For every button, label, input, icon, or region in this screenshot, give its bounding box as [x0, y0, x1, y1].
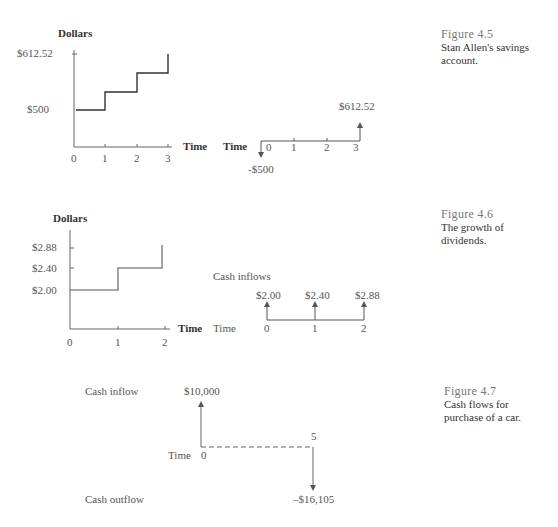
- fig47-end-tick: 5: [311, 430, 317, 442]
- fig46-tl-value-2: $2.88: [355, 289, 380, 301]
- fig47-inflow-value: $10,000: [184, 385, 220, 397]
- fig46-tl-tick-2: 2: [361, 322, 367, 334]
- fig45-timeline: [261, 125, 360, 155]
- fig46-xtick-0: 0: [67, 336, 73, 348]
- fig46-caption-text: The growth of dividends.: [441, 221, 536, 247]
- fig45-caption-text: Stan Allen's savings account.: [441, 41, 551, 67]
- fig46-timeline-label: Time: [213, 322, 236, 334]
- fig45-tl-tick-3: 3: [353, 141, 359, 153]
- fig45-ytick-bottom: $500: [27, 103, 49, 115]
- fig46-ylabel: Dollars: [53, 212, 87, 224]
- fig45-tl-tick-2: 2: [324, 141, 330, 153]
- fig47-outflow-side-label: Cash outflow: [85, 493, 144, 505]
- fig46-tl-tick-1: 1: [312, 322, 318, 334]
- fig46-timeline: [267, 304, 364, 320]
- fig47-inflow-side-label: Cash inflow: [85, 385, 138, 397]
- fig45-ylabel: Dollars: [58, 27, 92, 39]
- fig45-xtick-2: 2: [134, 152, 140, 164]
- fig46-xtick-1: 1: [115, 336, 121, 348]
- fig45-outflow-value: -$500: [248, 163, 274, 175]
- fig46-ytick-288: $2.88: [32, 241, 57, 253]
- fig46-chart: [70, 230, 170, 329]
- fig45-xlabel: Time: [183, 140, 207, 152]
- fig46-step-line: [70, 245, 162, 290]
- fig46-ytick-200: $2.00: [32, 284, 57, 296]
- fig46-ytick-240: $2.40: [32, 262, 57, 274]
- fig47-timeline: [201, 404, 313, 488]
- fig47-caption-title: Figure 4.7: [444, 384, 496, 399]
- fig45-timeline-label: Time: [223, 140, 247, 152]
- fig47-caption-text: Cash flows for purchase of a car.: [444, 398, 536, 424]
- fig46-tl-value-1: $2.40: [305, 289, 330, 301]
- fig45-ytick-top: $612.52: [17, 47, 53, 59]
- fig45-xtick-1: 1: [102, 152, 108, 164]
- fig45-xtick-0: 0: [71, 152, 77, 164]
- fig45-tl-tick-0: 0: [266, 141, 272, 153]
- fig45-chart: [72, 50, 172, 147]
- fig46-tl-tick-0: 0: [264, 322, 270, 334]
- fig45-step-line: [76, 54, 168, 110]
- fig45-caption-title: Figure 4.5: [441, 27, 493, 42]
- fig46-xlabel: Time: [178, 322, 202, 334]
- fig46-tl-value-0: $2.00: [256, 289, 281, 301]
- fig46-timeline-title: Cash inflows: [213, 270, 271, 282]
- fig47-timeline-label: Time: [168, 449, 191, 461]
- fig45-xtick-3: 3: [165, 152, 171, 164]
- fig46-caption-title: Figure 4.6: [441, 207, 493, 222]
- fig45-tl-tick-1: 1: [291, 141, 297, 153]
- fig47-start-tick: 0: [201, 449, 207, 461]
- fig47-outflow-value: –$16,105: [293, 493, 334, 505]
- fig45-inflow-value: $612.52: [339, 100, 375, 112]
- diagram-linework: [0, 0, 558, 527]
- fig46-xtick-2: 2: [162, 336, 168, 348]
